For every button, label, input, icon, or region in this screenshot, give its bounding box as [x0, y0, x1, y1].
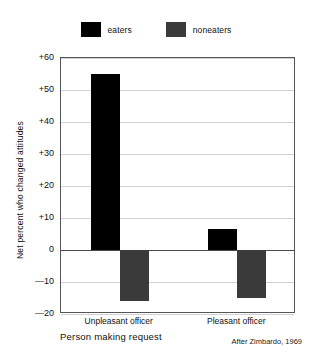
plot-area: [60, 57, 295, 313]
x-axis-ticks: Unpleasant officerPleasant officer: [60, 316, 295, 330]
legend-item-eaters: eaters: [81, 22, 132, 37]
chart-legend: eaters noneaters: [0, 22, 312, 37]
y-tick-label: 0: [49, 245, 54, 254]
y-tick-label: —10: [35, 277, 54, 286]
y-tick-label: —20: [35, 309, 54, 318]
y-axis-ticks: +60+50+40+30+20+100—10—20: [0, 57, 58, 313]
y-tick-label: +50: [39, 85, 54, 94]
bar-noneaters-unpleasant-officer: [120, 250, 149, 301]
source-note: After Zimbardo, 1969: [232, 337, 302, 346]
legend-swatch-noneaters-icon: [166, 22, 186, 37]
bar-noneaters-pleasant-officer: [237, 250, 266, 298]
legend-label-eaters: eaters: [108, 25, 132, 35]
bars-layer: [61, 58, 294, 312]
x-axis-title: Person making request: [60, 331, 162, 342]
y-tick-label: +20: [39, 181, 54, 190]
y-tick-label: +30: [39, 149, 54, 158]
legend-label-noneaters: noneaters: [193, 25, 232, 35]
y-axis-title: Net percent who changed attitudes: [15, 90, 25, 290]
bar-eaters-pleasant-officer: [208, 229, 237, 250]
x-tick-label: Pleasant officer: [207, 316, 265, 326]
legend-swatch-eaters-icon: [81, 22, 101, 37]
bar-eaters-unpleasant-officer: [91, 74, 120, 250]
x-tick-label: Unpleasant officer: [85, 316, 153, 326]
legend-item-noneaters: noneaters: [166, 22, 232, 37]
y-tick-label: +40: [39, 117, 54, 126]
gridline: [61, 314, 294, 315]
y-tick-label: +60: [39, 53, 54, 62]
y-tick-label: +10: [39, 213, 54, 222]
